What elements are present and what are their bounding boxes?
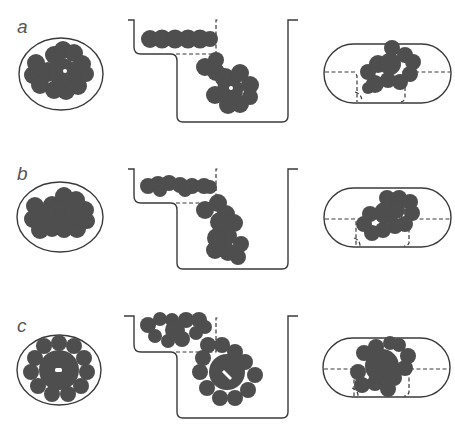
dashed-divider-left — [325, 72, 357, 102]
side-view-c — [323, 336, 450, 397]
center-hole — [229, 86, 233, 90]
dashed-arc — [354, 238, 360, 246]
rotated-molecule — [196, 52, 259, 114]
container-a — [128, 20, 298, 122]
dashed-divider-left — [324, 369, 354, 396]
flat-molecule — [141, 30, 218, 49]
flat-molecule — [140, 175, 217, 197]
cross-section-c — [17, 335, 101, 405]
figure-canvas: a — [0, 0, 455, 429]
container-c — [124, 312, 298, 418]
panel-label-a: a — [17, 16, 28, 37]
cross-section-b — [17, 182, 103, 252]
molecule-side — [356, 190, 420, 241]
panel-b: b — [17, 163, 451, 269]
cross-section-a — [19, 38, 103, 110]
container-b — [128, 169, 298, 269]
rotated-molecule — [192, 337, 263, 406]
molecule-blob — [24, 41, 94, 100]
panel-a: a — [17, 16, 451, 122]
dashed-arc — [355, 92, 362, 102]
side-view-b — [324, 188, 451, 247]
center-hole — [63, 69, 67, 73]
side-view-a — [324, 40, 451, 103]
panel-label-b: b — [17, 163, 28, 184]
rotated-molecule — [196, 194, 249, 265]
panel-c: c — [17, 312, 450, 418]
dashed-divider-left — [325, 219, 356, 246]
panel-label-c: c — [17, 315, 27, 336]
molecule-blob — [24, 187, 95, 239]
center-hole — [55, 368, 62, 372]
molecule-side — [360, 40, 421, 94]
molecule-side — [350, 336, 416, 397]
